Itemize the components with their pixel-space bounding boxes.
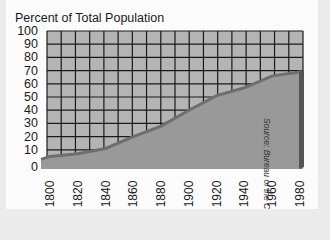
x-tick-label: 1860 — [127, 178, 139, 209]
y-tick-label: 10 — [10, 144, 38, 157]
y-tick-label: 80 — [10, 51, 38, 64]
x-tick-label: 1840 — [100, 178, 112, 209]
x-tick-label: 1980 — [294, 178, 306, 209]
y-tick-label: 50 — [10, 91, 38, 104]
y-tick-label: 90 — [10, 38, 38, 51]
x-tick-label: 1880 — [155, 178, 167, 209]
area-base — [41, 163, 299, 169]
source-note: Source: Bureau of the Census — [262, 118, 272, 209]
y-tick-label: 60 — [10, 78, 38, 91]
x-tick-label: 1800 — [44, 178, 56, 209]
x-tick-label: 1900 — [183, 178, 195, 209]
x-tick-label: 1940 — [238, 178, 250, 209]
y-tick-label: 40 — [10, 104, 38, 117]
x-tick-label: 1920 — [211, 178, 223, 209]
y-tick-label: 30 — [10, 117, 38, 130]
y-tick-label: 70 — [10, 65, 38, 78]
x-tick-label: 1820 — [72, 178, 84, 209]
y-tick-label: 0 — [10, 161, 38, 174]
area-side — [299, 70, 304, 169]
y-tick-label: 100 — [10, 25, 38, 38]
y-tick-label: 20 — [10, 131, 38, 144]
